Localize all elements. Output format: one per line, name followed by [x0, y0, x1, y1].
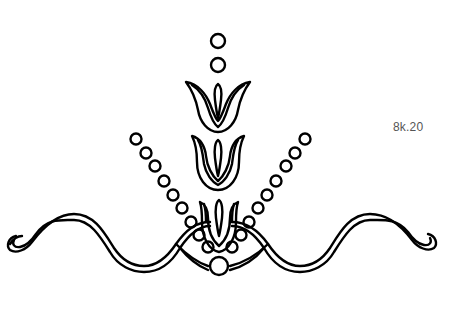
circle-icon [131, 134, 142, 145]
tulip-icon [192, 136, 244, 190]
circle-icon [236, 230, 247, 241]
circle-icon [141, 148, 152, 159]
circle-icon [177, 203, 188, 214]
ornament-artwork [0, 0, 468, 317]
circle-icon [150, 161, 161, 172]
pattern-code-label: 8k.20 [393, 120, 423, 134]
circle-icon [271, 176, 282, 187]
tulip-icon [186, 82, 250, 132]
circle-icon [262, 190, 273, 201]
circle-icon [210, 257, 228, 275]
circle-icon [290, 148, 301, 159]
bottom-dot [210, 257, 228, 275]
top-dots [211, 34, 225, 72]
circle-icon [211, 58, 225, 72]
circle-icon [281, 161, 292, 172]
circle-icon [159, 176, 170, 187]
circle-icon [168, 190, 179, 201]
circle-icon [211, 34, 225, 48]
circle-icon [300, 134, 311, 145]
circle-icon [253, 203, 264, 214]
